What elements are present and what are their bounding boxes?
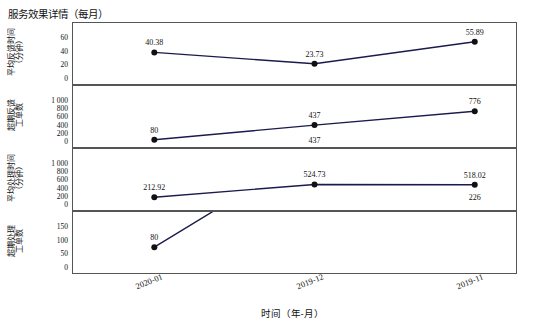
y-axis-label: 超期反馈工单数 — [8, 85, 25, 144]
y-tick-label: 200 — [40, 129, 68, 138]
chart-panel: 40.3823.7355.89 — [72, 22, 517, 85]
y-tick-label: 100 — [40, 236, 68, 245]
data-label: 437 — [309, 111, 321, 120]
y-tick-label: 800 — [40, 167, 68, 176]
y-tick-label: 600 — [40, 175, 68, 184]
x-axis-title: 时间（年-月） — [261, 306, 324, 320]
y-tick-label: 1 000 — [40, 159, 68, 168]
data-label: 80 — [150, 126, 158, 135]
data-label: 55.89 — [466, 28, 484, 37]
data-point — [151, 49, 157, 55]
data-label: 776 — [469, 97, 481, 106]
data-label: 226 — [469, 193, 481, 202]
data-label: 524.73 — [304, 170, 326, 179]
panel-plot — [72, 212, 517, 275]
data-point — [151, 244, 157, 250]
chart-panel: 80437226 — [72, 211, 517, 274]
data-label: 80 — [150, 233, 158, 242]
y-tick-label: 20 — [40, 60, 68, 69]
chart-title: 服务效果详情（每月） — [8, 6, 108, 21]
panel-plot — [72, 23, 517, 86]
data-label: 437 — [309, 136, 321, 145]
y-tick-label: 400 — [40, 121, 68, 130]
y-tick-label: 800 — [40, 104, 68, 113]
data-point — [151, 194, 157, 200]
data-label: 518.02 — [464, 171, 486, 180]
data-label: 40.38 — [145, 38, 163, 47]
data-point — [472, 39, 478, 45]
data-label: 212.92 — [143, 183, 165, 192]
panel-stack: 40.3823.7355.8980437776212.92524.73518.0… — [72, 22, 517, 274]
y-axis-label: 平均反馈时间（分钟） — [8, 22, 25, 81]
y-tick-label: 400 — [40, 184, 68, 193]
data-point — [472, 108, 478, 114]
y-tick-label: 200 — [40, 192, 68, 201]
series-line — [154, 212, 474, 247]
y-axis-label: 平均处理时间（分钟） — [8, 148, 25, 207]
y-tick-label: 150 — [40, 222, 68, 231]
y-tick-label: 50 — [40, 249, 68, 258]
y-tick-label: 0 — [40, 137, 68, 146]
y-tick-label: 1 000 — [40, 96, 68, 105]
data-point — [312, 122, 318, 128]
y-tick-label: 40 — [40, 47, 68, 56]
y-tick-label: 0 — [40, 263, 68, 272]
data-label: 23.73 — [306, 50, 324, 59]
chart-panel: 80437776 — [72, 85, 517, 148]
y-tick-label: 600 — [40, 112, 68, 121]
y-tick-label: 0 — [40, 200, 68, 209]
y-axis-label: 超期处理工单数 — [8, 211, 25, 270]
data-point — [151, 137, 157, 143]
panel-plot — [72, 86, 517, 149]
chart-panel: 212.92524.73518.02 — [72, 148, 517, 211]
panel-plot — [72, 149, 517, 212]
y-tick-label: 60 — [40, 33, 68, 42]
data-point — [472, 182, 478, 188]
y-tick-label: 0 — [40, 74, 68, 83]
data-point — [312, 61, 318, 67]
data-point — [312, 181, 318, 187]
chart-figure: 服务效果详情（每月） 40.3823.7355.8980437776212.92… — [0, 0, 535, 324]
